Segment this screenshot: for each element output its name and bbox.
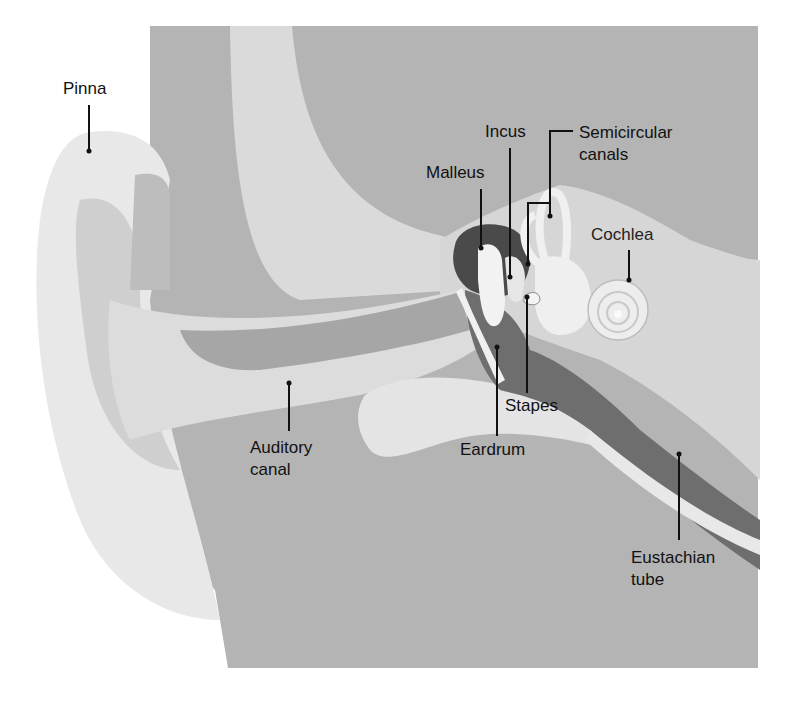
label-incus: Incus bbox=[485, 122, 526, 142]
label-pinna: Pinna bbox=[63, 79, 106, 99]
label-cochlea: Cochlea bbox=[591, 225, 653, 245]
label-malleus: Malleus bbox=[426, 163, 485, 183]
ear-anatomy-diagram: Pinna Incus Semicircular canals Malleus … bbox=[0, 0, 788, 708]
label-eustachian-tube: Eustachian tube bbox=[631, 547, 715, 591]
ear-illustration bbox=[0, 0, 788, 708]
label-stapes: Stapes bbox=[505, 396, 558, 416]
cochlea-shape bbox=[588, 280, 648, 340]
tragus bbox=[130, 174, 170, 290]
label-auditory-canal: Auditory canal bbox=[250, 437, 312, 481]
label-semicircular-canals: Semicircular canals bbox=[579, 122, 673, 166]
label-eardrum: Eardrum bbox=[460, 440, 525, 460]
